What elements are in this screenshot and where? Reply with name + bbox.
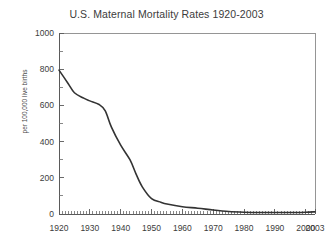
plot-svg: 02004006008001000 1920193019401950196019… [0, 0, 333, 252]
chart-container: U.S. Maternal Mortality Rates 1920-2003 … [0, 0, 333, 252]
y-tick-label-1000: 1000 [35, 28, 54, 38]
y-axis-tick-labels: 02004006008001000 [35, 28, 54, 219]
y-tick-label-400: 400 [40, 137, 54, 147]
x-tick-label-1940: 1940 [111, 223, 130, 233]
y-tick-label-0: 0 [49, 209, 54, 219]
x-tick-label-1990: 1990 [265, 223, 284, 233]
y-tick-label-600: 600 [40, 100, 54, 110]
x-tick-label-1980: 1980 [235, 223, 254, 233]
y-axis-ticks [59, 33, 64, 214]
y-tick-label-800: 800 [40, 64, 54, 74]
x-tick-label-1930: 1930 [80, 223, 99, 233]
x-tick-label-1920: 1920 [50, 223, 69, 233]
x-tick-label-2003: 2003 [306, 223, 325, 233]
x-tick-label-1970: 1970 [204, 223, 223, 233]
y-tick-label-200: 200 [40, 173, 54, 183]
plot-frame [59, 33, 315, 214]
data-series-line [59, 70, 315, 212]
x-tick-label-1950: 1950 [142, 223, 161, 233]
x-tick-label-1960: 1960 [173, 223, 192, 233]
x-axis-tick-labels: 1920193019401950196019701980199020002003 [50, 223, 325, 233]
